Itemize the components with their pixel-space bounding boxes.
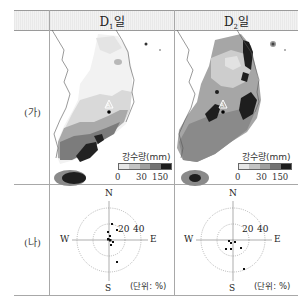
wind-points-d2 <box>225 240 245 270</box>
ring-label-20-d2: 20 <box>242 224 253 234</box>
wind-rose-d2 <box>0 0 306 305</box>
compass-e-d2: E <box>274 234 281 244</box>
unit-label-d2: (단위: %) <box>254 279 290 291</box>
compass-n-d2: N <box>229 188 237 198</box>
compass-w-d2: W <box>184 234 193 244</box>
compass-s-d2: S <box>229 283 235 293</box>
ring-label-40-d2: 40 <box>257 224 268 234</box>
